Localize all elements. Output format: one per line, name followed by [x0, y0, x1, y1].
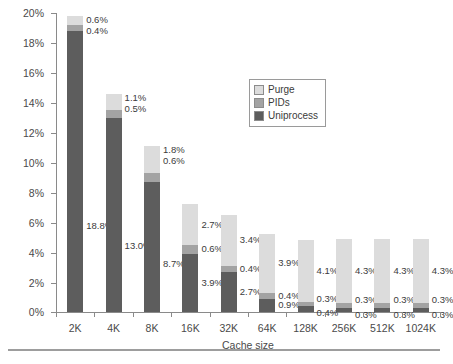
- x-tick-mark: [210, 312, 211, 317]
- bar-segment-pids: [221, 266, 237, 272]
- y-tick-label: 16%: [0, 68, 44, 78]
- value-label-purge: 4.3%: [393, 266, 415, 276]
- y-tick-label: 0%: [0, 307, 44, 317]
- value-label-pids: 0.3%: [393, 295, 415, 305]
- bar-segment-uniprocess: [182, 254, 198, 312]
- value-label-purge: 2.7%: [201, 220, 223, 230]
- bar-segment-uniprocess: [221, 272, 237, 312]
- bar-128K: [298, 240, 314, 312]
- value-label-uniprocess: 3.9%: [201, 278, 223, 288]
- y-tick-label: 14%: [0, 98, 44, 108]
- value-label-uniprocess: 0.3%: [432, 310, 453, 320]
- x-tick-label-256K: 256K: [325, 322, 363, 334]
- x-tick-mark: [94, 312, 95, 317]
- bar-segment-pids: [298, 302, 314, 306]
- value-label-purge: 1.1%: [125, 93, 147, 103]
- bar-segment-purge: [336, 239, 352, 303]
- y-tick-label: 4%: [0, 248, 44, 258]
- bar-segment-purge: [413, 239, 429, 303]
- legend-item-pids: PIDs: [254, 97, 318, 109]
- bar-4K: [106, 94, 122, 312]
- value-label-purge: 4.3%: [432, 266, 453, 276]
- bar-segment-purge: [259, 234, 275, 292]
- value-label-pids: 0.3%: [432, 295, 453, 305]
- bar-2K: [67, 16, 83, 312]
- x-tick-mark: [248, 312, 249, 317]
- bar-segment-purge: [374, 239, 390, 303]
- bar-segment-purge: [144, 146, 160, 173]
- value-label-uniprocess: 0.9%: [278, 300, 300, 310]
- legend-label: PIDs: [268, 98, 290, 108]
- x-tick-mark: [363, 312, 364, 317]
- bar-segment-purge: [182, 204, 198, 244]
- value-label-pids: 0.5%: [125, 104, 147, 114]
- value-label-uniprocess: 0.4%: [317, 308, 339, 318]
- legend-swatch-icon: [254, 111, 264, 121]
- caption-divider: [8, 349, 440, 351]
- x-tick-label-512K: 512K: [363, 322, 401, 334]
- x-tick-mark: [440, 312, 441, 317]
- value-label-pids: 0.6%: [163, 156, 185, 166]
- value-label-purge: 4.1%: [317, 266, 339, 276]
- bar-segment-purge: [298, 240, 314, 301]
- legend-item-uniprocess: Uniprocess: [254, 110, 318, 122]
- bar-1024K: [413, 239, 429, 312]
- x-tick-label-2K: 2K: [56, 322, 94, 334]
- y-tick-label: 20%: [0, 8, 44, 18]
- bar-8K: [144, 146, 160, 312]
- bar-segment-pids: [144, 173, 160, 182]
- y-axis-tick-labels: 20% 18% 16% 14% 12% 10% 8% 6% 4% 2% 0%: [0, 0, 50, 364]
- y-tick-label: 2%: [0, 278, 44, 288]
- y-tick-label: 8%: [0, 188, 44, 198]
- x-tick-mark: [56, 312, 57, 317]
- x-tick-mark: [133, 312, 134, 317]
- bar-segment-purge: [106, 94, 122, 110]
- x-tick-mark: [325, 312, 326, 317]
- x-tick-label-64K: 64K: [248, 322, 286, 334]
- y-tick-label: 6%: [0, 218, 44, 228]
- x-tick-label-128K: 128K: [286, 322, 324, 334]
- x-tick-label-1024K: 1024K: [402, 322, 440, 334]
- y-tick-label: 12%: [0, 128, 44, 138]
- bar-segment-pids: [182, 245, 198, 254]
- x-tick-label-8K: 8K: [133, 322, 171, 334]
- bar-segment-pids: [67, 25, 83, 31]
- legend-label: Purge: [268, 85, 295, 95]
- x-tick-label-32K: 32K: [210, 322, 248, 334]
- value-label-purge: 0.6%: [86, 15, 108, 25]
- legend-swatch-icon: [254, 98, 264, 108]
- y-tick-label: 18%: [0, 38, 44, 48]
- bar-segment-pids: [106, 110, 122, 117]
- bar-segment-uniprocess: [413, 308, 429, 312]
- legend-swatch-icon: [254, 85, 264, 95]
- bar-64K: [259, 234, 275, 312]
- value-label-purge: 1.8%: [163, 145, 185, 155]
- bar-512K: [374, 239, 390, 312]
- x-tick-mark: [286, 312, 287, 317]
- plot-area: 0.6%0.4%18.8%1.1%0.5%13.0%1.8%0.6%8.7%2.…: [56, 13, 440, 312]
- x-tick-label-4K: 4K: [94, 322, 132, 334]
- legend-label: Uniprocess: [268, 111, 318, 121]
- bar-segment-purge: [67, 16, 83, 25]
- bar-segment-uniprocess: [374, 308, 390, 312]
- value-label-pids: 0.4%: [86, 26, 108, 36]
- bar-256K: [336, 239, 352, 312]
- legend-item-purge: Purge: [254, 84, 318, 96]
- bar-segment-pids: [336, 303, 352, 307]
- bar-segment-pids: [259, 293, 275, 299]
- bar-16K: [182, 204, 198, 312]
- y-tick-label: 10%: [0, 158, 44, 168]
- bar-segment-purge: [221, 215, 237, 266]
- bar-segment-pids: [413, 303, 429, 307]
- bar-segment-pids: [374, 303, 390, 307]
- bar-segment-uniprocess: [298, 306, 314, 312]
- bar-segment-uniprocess: [67, 31, 83, 312]
- chart-legend: Purge PIDs Uniprocess: [249, 79, 326, 127]
- x-tick-label-16K: 16K: [171, 322, 209, 334]
- bar-segment-uniprocess: [106, 118, 122, 312]
- bar-segment-uniprocess: [144, 182, 160, 312]
- x-tick-mark: [402, 312, 403, 317]
- value-label-uniprocess: 0.3%: [393, 310, 415, 320]
- bar-segment-uniprocess: [336, 308, 352, 312]
